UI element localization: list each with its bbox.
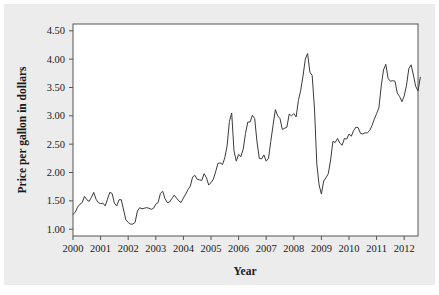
price-per-gallon-line-chart: 1.001.502.002.503.003.504.004.50 2000200… — [4, 4, 435, 285]
x-tick-label-2009: 2009 — [311, 243, 332, 254]
x-tick-label-2011: 2011 — [366, 243, 387, 254]
x-tick-label-2001: 2001 — [90, 243, 111, 254]
y-tick-label-2.50: 2.50 — [47, 139, 65, 150]
x-tick-label-2000: 2000 — [63, 243, 84, 254]
x-tick-label-2008: 2008 — [283, 243, 304, 254]
x-tick-label-2005: 2005 — [201, 243, 222, 254]
y-tick-label-3.00: 3.00 — [47, 110, 65, 121]
x-tick-label-2010: 2010 — [339, 243, 360, 254]
x-tick-label-2003: 2003 — [145, 243, 166, 254]
x-tick-label-2002: 2002 — [118, 243, 139, 254]
y-tick-label-4.50: 4.50 — [47, 25, 65, 36]
x-tick-label-2012: 2012 — [394, 243, 415, 254]
plot-frame — [73, 24, 418, 236]
y-tick-label-1.50: 1.50 — [47, 195, 65, 206]
x-tick-label-2004: 2004 — [173, 243, 195, 254]
y-axis-title: Price per gallon in dollars — [16, 66, 29, 193]
x-tick-label-2007: 2007 — [256, 243, 277, 254]
x-tick-label-2006: 2006 — [228, 243, 249, 254]
y-tick-label-4.00: 4.00 — [47, 54, 65, 65]
y-tick-label-2.00: 2.00 — [47, 167, 65, 178]
y-tick-label-1.00: 1.00 — [47, 224, 65, 235]
x-axis-title: Year — [234, 265, 257, 277]
y-tick-label-3.50: 3.50 — [47, 82, 65, 93]
chart-figure: 1.001.502.002.503.003.504.004.50 2000200… — [4, 4, 435, 285]
